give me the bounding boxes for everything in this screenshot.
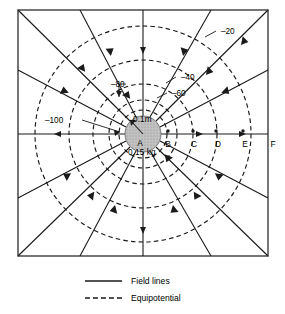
axis-point-label-b: B xyxy=(165,139,171,149)
equipotential-label-60: –60 xyxy=(172,89,186,98)
axis-point-marker xyxy=(214,129,217,132)
mass-label: 0.15 kg xyxy=(128,148,156,157)
field-diagram-figure: –20 –40 –60 –80 –100 0.1m 0.15 kg A B C … xyxy=(0,0,285,314)
equipotential-label-100: –100 xyxy=(45,116,64,125)
axis-point-label-e: E xyxy=(242,139,248,149)
equipotential-label-40: –40 xyxy=(181,73,195,82)
radius-label: 0.1m xyxy=(133,115,152,124)
equipotential-label-80: –80 xyxy=(111,80,125,89)
axis-point-marker xyxy=(241,129,244,132)
axis-point-label-d: D xyxy=(215,139,221,149)
axis-point-marker xyxy=(166,129,169,132)
axis-point-label-f: F xyxy=(270,139,275,149)
axis-point-label-a: A xyxy=(137,138,143,148)
axis-point-label-c: C xyxy=(191,139,197,149)
legend: Field lines Equipotential xyxy=(85,276,181,303)
equipotential-label-20: –20 xyxy=(221,27,235,36)
axis-point-marker xyxy=(191,129,194,132)
legend-label-equipotential: Equipotential xyxy=(131,293,181,303)
field-diagram-svg: –20 –40 –60 –80 –100 0.1m 0.15 kg A B C … xyxy=(0,0,285,314)
legend-label-field-lines: Field lines xyxy=(131,276,170,286)
